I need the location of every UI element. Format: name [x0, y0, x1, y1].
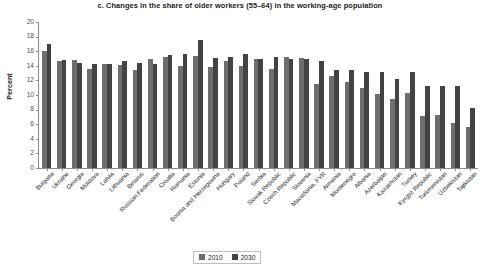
legend-item-2030: 2030	[232, 254, 256, 261]
bar-2030	[410, 72, 415, 168]
chart-title: c. Changes in the share of older workers…	[0, 1, 480, 10]
x-tick-mark	[410, 168, 411, 171]
x-tick-mark	[425, 168, 426, 171]
y-axis-title: Percent	[5, 57, 14, 117]
y-tick-label: 16	[27, 48, 34, 55]
bar-group	[102, 22, 111, 168]
bar-2030	[107, 64, 112, 168]
bar-group	[178, 22, 187, 168]
y-tick-label: 0	[30, 165, 34, 172]
x-tick-mark	[168, 168, 169, 171]
bar-group	[163, 22, 172, 168]
x-axis-tick-labels: BulgariaUkraineGeorgiaMoldovaLatviaLithu…	[39, 170, 480, 250]
x-tick-mark	[289, 168, 290, 171]
bar-2030	[425, 86, 430, 168]
bar-2030	[364, 72, 369, 168]
x-tick-mark	[304, 168, 305, 171]
bar-2030	[380, 72, 385, 168]
x-tick-mark	[62, 168, 63, 171]
bar-group	[390, 22, 399, 168]
bar-group	[224, 22, 233, 168]
bar-2030	[258, 59, 263, 169]
chart-figure: c. Changes in the share of older workers…	[0, 0, 480, 278]
bar-group	[451, 22, 460, 168]
bar-2030	[440, 86, 445, 168]
x-tick-mark	[153, 168, 154, 171]
y-tick-label: 20	[27, 19, 34, 26]
bar-2030	[274, 57, 279, 168]
y-tick-label: 12	[27, 77, 34, 84]
legend-swatch-2030	[232, 254, 238, 260]
bar-2030	[198, 40, 203, 168]
x-tick-label: Bulgaria	[34, 170, 55, 191]
bar-2030	[153, 64, 158, 168]
bar-2030	[470, 108, 475, 168]
chart-legend: 2010 2030	[193, 251, 261, 264]
bar-group	[435, 22, 444, 168]
bar-2030	[122, 61, 127, 168]
bar-2030	[168, 55, 173, 168]
bar-group	[208, 22, 217, 168]
y-tick-label: 14	[27, 63, 34, 70]
bar-group	[118, 22, 127, 168]
legend-item-2010: 2010	[199, 254, 223, 261]
bar-2030	[304, 59, 309, 169]
bar-group	[42, 22, 51, 168]
y-tick-label: 6	[30, 121, 34, 128]
bar-group	[72, 22, 81, 168]
bar-2030	[137, 63, 142, 168]
x-tick-mark	[380, 168, 381, 171]
bar-group	[466, 22, 475, 168]
y-tick-label: 18	[27, 33, 34, 40]
bar-group	[148, 22, 157, 168]
y-axis-tick-labels: 20181614121086420	[16, 18, 38, 169]
x-tick-mark	[259, 168, 260, 171]
bar-group	[345, 22, 354, 168]
plot-area	[39, 22, 478, 168]
bar-2030	[289, 59, 294, 168]
legend-label-2010: 2010	[208, 254, 223, 261]
y-tick-label: 2	[30, 150, 34, 157]
bar-group	[405, 22, 414, 168]
bar-group	[57, 22, 66, 168]
bar-2030	[319, 61, 324, 168]
bar-2030	[455, 86, 460, 168]
bar-2030	[243, 54, 248, 168]
bar-group	[314, 22, 323, 168]
legend-swatch-2010	[199, 254, 205, 260]
x-tick-mark	[274, 168, 275, 171]
bar-group	[269, 22, 278, 168]
bar-2030	[47, 44, 52, 168]
bar-group	[284, 22, 293, 168]
bar-group	[254, 22, 263, 168]
bar-group	[87, 22, 96, 168]
legend-label-2030: 2030	[241, 254, 256, 261]
bar-group	[239, 22, 248, 168]
x-tick-mark	[395, 168, 396, 171]
bar-2030	[62, 60, 67, 168]
x-tick-mark	[77, 168, 78, 171]
bar-group	[360, 22, 369, 168]
bar-2030	[77, 63, 82, 168]
x-tick-label: Poland	[233, 170, 252, 189]
bar-2030	[228, 57, 233, 168]
bar-group	[133, 22, 142, 168]
bar-2030	[183, 54, 188, 168]
y-tick-label: 8	[30, 106, 34, 113]
y-tick-label: 4	[30, 136, 34, 143]
bar-group	[420, 22, 429, 168]
x-tick-mark	[47, 168, 48, 171]
x-tick-mark	[92, 168, 93, 171]
x-tick-mark	[198, 168, 199, 171]
bar-2030	[92, 64, 97, 168]
bar-group	[193, 22, 202, 168]
bar-group	[375, 22, 384, 168]
bar-2030	[349, 70, 354, 168]
y-tick-label: 10	[27, 92, 34, 99]
bar-group	[329, 22, 338, 168]
x-tick-mark	[183, 168, 184, 171]
bar-2030	[334, 70, 339, 168]
bar-2030	[213, 58, 218, 168]
bar-2030	[395, 79, 400, 168]
bar-group	[299, 22, 308, 168]
